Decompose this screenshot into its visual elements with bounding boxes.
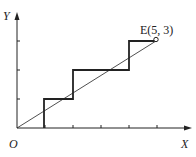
diagram-canvas: Y X O E(5, 3) xyxy=(0,0,196,157)
diagonal-line xyxy=(17,41,156,128)
x-axis-arrow-icon xyxy=(184,126,192,131)
origin-label: O xyxy=(9,137,18,151)
staircase-path xyxy=(44,41,156,128)
x-axis-label: X xyxy=(180,137,189,151)
y-axis-label: Y xyxy=(3,9,11,23)
point-e-label: E(5, 3) xyxy=(140,23,173,37)
y-axis-arrow-icon xyxy=(15,12,20,20)
point-e-marker xyxy=(154,37,158,41)
